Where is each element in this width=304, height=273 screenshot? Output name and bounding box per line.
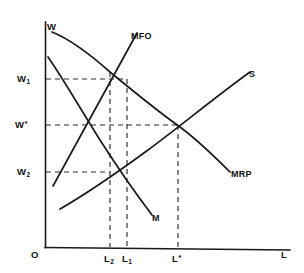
y-tick-w2-sub: 2 [26, 171, 30, 178]
curves-group [48, 32, 250, 215]
y-tick-w1-base: W [17, 73, 26, 84]
x-tick-l2: L2 [104, 254, 114, 264]
x-axis-line [45, 248, 290, 251]
curve-label-m: M [152, 214, 160, 223]
y-tick-w2: W2 [17, 167, 30, 177]
x-tick-l2-sub: 2 [110, 258, 114, 265]
y-axis-label: W [47, 22, 56, 32]
s-curve [60, 72, 250, 209]
curve-label-s: S [249, 70, 255, 79]
diagram-canvas [0, 0, 304, 273]
curve-label-mrp: MRP [231, 170, 252, 179]
monopsony-labour-market-diagram: W L O W1 W* W2 L2 L1 L* MFO S MRP M [0, 0, 304, 273]
x-tick-lstar: L* [172, 254, 181, 264]
x-tick-lstar-sup: * [178, 253, 181, 262]
y-tick-w1: W1 [17, 74, 30, 84]
y-tick-w2-base: W [17, 166, 26, 177]
y-tick-wstar: W* [15, 120, 28, 130]
y-tick-wstar-base: W [15, 119, 24, 130]
origin-label: O [31, 250, 39, 260]
mfo-curve [53, 33, 137, 186]
curve-label-mfo: MFO [131, 32, 152, 41]
mrp-curve [52, 32, 230, 172]
y-tick-wstar-sup: * [24, 119, 27, 128]
y-tick-w1-sub: 1 [26, 78, 30, 85]
x-tick-l1: L1 [122, 254, 132, 264]
m-curve [48, 57, 152, 215]
x-axis-label: L [281, 250, 287, 260]
x-tick-l1-sub: 1 [128, 258, 132, 265]
